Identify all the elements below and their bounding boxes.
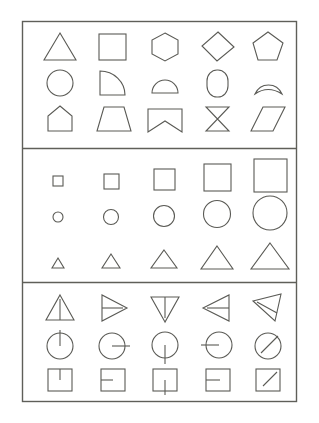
diamond-shape [202, 32, 234, 61]
orientation-line [261, 336, 278, 353]
figure-root [0, 0, 319, 423]
panel-orientation-series [46, 294, 281, 395]
panel-size-series [52, 159, 289, 269]
square-size-4 [204, 164, 231, 191]
square-size-3 [154, 169, 175, 190]
triangle-size-2 [102, 254, 120, 268]
circle-size-5 [253, 196, 287, 230]
triangle-pointing-upper-left [253, 294, 281, 321]
circle-marker-up [47, 330, 73, 359]
triangle-pointing-down [151, 297, 179, 322]
circle-size-2 [104, 210, 119, 225]
quarter-round-shape [100, 71, 125, 95]
circle-shape [47, 70, 73, 96]
square-marker-up [48, 369, 72, 391]
circle-marker-down [152, 332, 178, 364]
triangle-pointing-up [46, 295, 74, 320]
pentagon-shape [253, 32, 283, 60]
dome-shape [152, 80, 178, 93]
triangle-size-4 [201, 246, 233, 269]
shape-catalogue-figure [0, 0, 319, 423]
panel-shape-types [44, 32, 285, 132]
row-triangles-orientations [46, 294, 281, 322]
circle-size-1 [53, 212, 63, 222]
triangle-pointing-right [102, 295, 127, 321]
house-shape [48, 106, 72, 131]
triangle-size-1 [52, 258, 64, 268]
parallelogram-shape [251, 107, 285, 131]
circle-marker-right [99, 333, 130, 359]
triangle-shape [44, 33, 76, 60]
circle-size-3 [154, 206, 175, 227]
row-polygons [44, 32, 283, 61]
row-circles-orientations [47, 330, 281, 364]
square-shape [99, 34, 126, 60]
hexagon-shape [152, 33, 178, 61]
circle-marker-upper-right [255, 333, 281, 359]
banner-shape [148, 109, 182, 132]
triangle-size-3 [151, 250, 177, 268]
circle-marker-left [201, 332, 232, 358]
row-triangles-sizes [52, 243, 289, 269]
triangle-size-5 [251, 243, 289, 269]
hourglass-shape [206, 107, 229, 131]
row-circles-sizes [53, 196, 287, 230]
square-marker-left [101, 369, 125, 391]
square-size-1 [53, 176, 63, 186]
square-marker-down [153, 369, 177, 395]
stadium-shape [207, 70, 228, 97]
square-size-2 [104, 174, 119, 189]
orientation-line [263, 372, 277, 386]
square-marker-upper-right [256, 369, 280, 391]
row-squares-orientations [48, 369, 280, 395]
triangle-pointing-left [203, 295, 229, 321]
square-marker-left-inner [206, 369, 230, 391]
trapezoid-shape [97, 107, 131, 131]
square-size-5 [254, 159, 287, 192]
concave-dome-shape [255, 85, 282, 94]
circle-size-4 [204, 201, 231, 228]
row-curved [47, 70, 282, 97]
row-irregular [48, 106, 285, 132]
row-squares-sizes [53, 159, 287, 192]
